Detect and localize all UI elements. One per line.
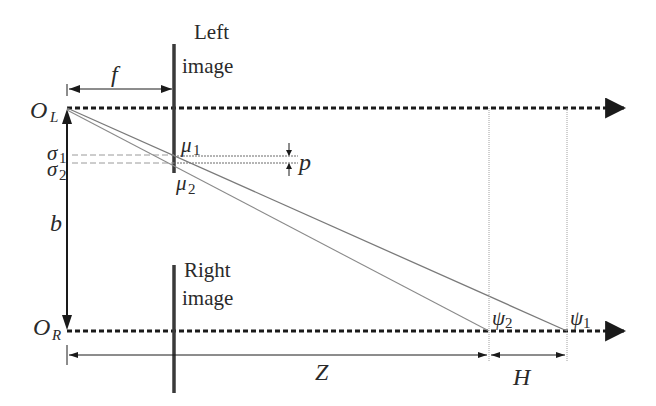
- mu1-label: μ: [180, 133, 192, 157]
- mu2-subscript: 2: [188, 181, 196, 197]
- right-origin-subscript: R: [51, 327, 61, 343]
- right-origin-label: O: [33, 314, 50, 340]
- ray-to-psi2: [67, 110, 489, 331]
- depth-resolution-label: H: [512, 364, 532, 390]
- sigma2-subscript: 2: [59, 167, 67, 183]
- stereo-geometry-diagram: Left image Right image f O L O R b σ 1 σ…: [0, 0, 656, 406]
- left-origin-label: O: [30, 97, 47, 123]
- sigma1-subscript: 1: [59, 150, 67, 166]
- focal-length-label: f: [111, 61, 121, 87]
- right-image-label-line2: image: [182, 286, 233, 310]
- psi1-label: ψ: [570, 306, 584, 330]
- left-image-label-line1: Left: [194, 20, 229, 44]
- psi2-subscript: 2: [505, 315, 513, 331]
- mu2-label: μ: [175, 171, 187, 195]
- left-image-label-line2: image: [182, 54, 233, 78]
- mu1-subscript: 1: [193, 142, 201, 158]
- psi1-subscript: 1: [583, 315, 591, 331]
- pixel-size-label: p: [297, 149, 311, 175]
- left-origin-subscript: L: [49, 109, 58, 125]
- right-image-label-line1: Right: [184, 258, 231, 282]
- psi2-label: ψ: [492, 306, 506, 330]
- sigma2-label: σ: [47, 157, 59, 181]
- depth-label: Z: [315, 359, 329, 385]
- baseline-label: b: [50, 210, 62, 236]
- ray-to-psi1: [67, 108, 567, 331]
- baseline-arrowhead-bottom: [62, 315, 72, 330]
